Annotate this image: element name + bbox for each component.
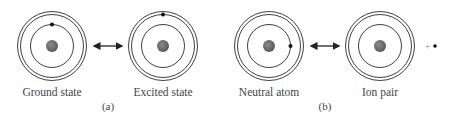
nucleus [157,40,169,52]
electron [161,13,165,17]
caption-b: (b) [319,100,332,112]
nucleus [46,40,58,52]
caption-a: (a) [102,100,114,112]
neutral-atom [235,12,304,81]
ground-state-atom [18,12,87,81]
plus-sign: + [425,41,430,51]
label-excited-state: Excited state [133,86,192,98]
atom-diagram: + [0,0,453,118]
label-ground-state: Ground state [22,86,81,98]
free-electron [433,44,437,48]
label-ion-pair: Ion pair [362,86,398,98]
nucleus [263,40,275,52]
ion-pair-atom [346,12,415,81]
electron [289,44,293,48]
label-neutral-atom: Neutral atom [239,86,299,98]
nucleus [374,40,386,52]
excited-state-atom [129,12,198,81]
electron [50,23,54,27]
